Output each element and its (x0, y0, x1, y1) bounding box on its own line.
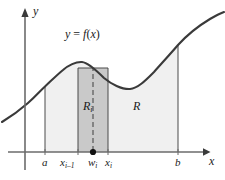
function-equation-label: y = f(x) (65, 28, 100, 40)
region-R-fill (40, 30, 185, 155)
y-axis-label: y (33, 5, 38, 17)
region-R-label: R (133, 100, 140, 112)
y-axis-arrow-icon (21, 8, 28, 17)
tick-b-base: b (175, 156, 181, 168)
figure-canvas (0, 0, 225, 180)
tick-xim1-subscript: i–1 (65, 161, 75, 170)
tick-label-x-i-minus-1: xi–1 (60, 157, 74, 170)
tick-label-a: a (42, 157, 48, 170)
tick-wi-subscript: i (95, 161, 97, 170)
riemann-sum-figure: y x y = f(x) Ri R a xi–1 wi xi b (0, 0, 225, 180)
sample-point-wi-dot (90, 149, 96, 155)
Ri-subscript: i (90, 105, 92, 114)
rectangle-Ri-label: Ri (83, 100, 93, 114)
tick-label-b: b (175, 157, 181, 170)
equation-close-paren: ) (96, 27, 100, 41)
x-axis-label: x (209, 155, 214, 167)
tick-label-w-i: wi (88, 157, 97, 170)
tick-label-x-i: xi (105, 157, 112, 170)
equation-equals: = (70, 27, 83, 41)
tick-a-base: a (42, 156, 48, 168)
tick-xi-subscript: i (110, 161, 112, 170)
